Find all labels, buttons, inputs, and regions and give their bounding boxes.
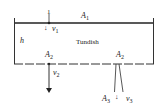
v2-label: v2: [53, 69, 60, 78]
nozzle-right-wall: [119, 64, 123, 92]
point-1-label: 1: [47, 9, 51, 16]
v1-arrow-icon: ↓: [44, 25, 48, 32]
nozzle-left-wall: [115, 64, 117, 92]
point-1-dot: [48, 22, 51, 25]
v3-arrow-icon: ↓: [115, 94, 119, 101]
v3-label: v3: [126, 95, 133, 104]
a2-right-label: A2: [116, 51, 124, 60]
a1-label: A1: [81, 12, 89, 21]
height-label: h: [20, 37, 24, 45]
v1-label: v1: [52, 25, 59, 34]
v2-arrow-head: [46, 88, 52, 93]
a2-left-label: A2: [45, 51, 53, 60]
tundish-label: Tundish: [76, 39, 99, 46]
a3-label: A3: [102, 95, 110, 104]
